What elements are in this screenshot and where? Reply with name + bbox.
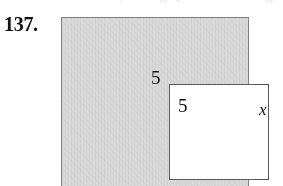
inner-square-top-side-label: 5 <box>151 68 161 87</box>
scan-artifact <box>120 1 123 3</box>
scan-artifact <box>160 0 167 3</box>
outer-square-side-label: x <box>259 101 267 118</box>
scan-artifact <box>176 0 180 2</box>
problem-number: 137. <box>4 14 38 34</box>
geometry-figure: 137. 5 5 x <box>0 0 283 186</box>
scan-artifact <box>265 0 273 3</box>
inner-square-right-side-label: 5 <box>178 96 188 115</box>
outer-shaded-square <box>61 17 249 186</box>
